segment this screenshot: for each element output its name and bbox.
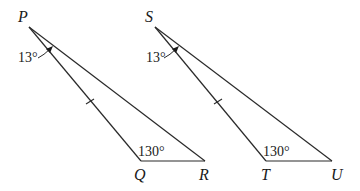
vertex-label-u: U xyxy=(331,166,344,183)
side-su xyxy=(155,27,332,161)
vertex-label-t: T xyxy=(261,166,271,183)
angle-label-q: 130° xyxy=(138,144,165,159)
angle-label-t: 130° xyxy=(263,144,290,159)
geometry-diagram: P Q R 13° 130° S T U 13° 130° xyxy=(0,0,360,191)
triangle-stu: S T U 13° 130° xyxy=(145,8,344,183)
side-pq xyxy=(29,27,141,161)
vertex-label-r: R xyxy=(198,166,209,183)
side-st xyxy=(155,27,266,161)
vertex-label-q: Q xyxy=(134,166,146,183)
angle-pointer-p xyxy=(38,46,53,58)
vertex-label-p: P xyxy=(17,8,28,25)
angle-label-s: 13° xyxy=(146,50,166,65)
side-pr xyxy=(29,27,205,161)
angle-label-p: 13° xyxy=(18,50,38,65)
triangle-pqr: P Q R 13° 130° xyxy=(17,8,209,183)
vertex-label-s: S xyxy=(145,8,153,25)
